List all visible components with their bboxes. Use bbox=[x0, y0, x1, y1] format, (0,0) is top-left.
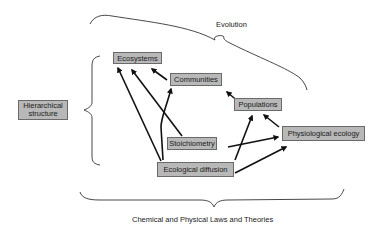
left-brace bbox=[84, 56, 100, 165]
hierarchical-structure-box: Hierarchical structure bbox=[18, 100, 68, 120]
arrow-physiological-ecology-to-populations bbox=[264, 115, 279, 127]
node-physiological-ecology: Physiological ecology bbox=[282, 126, 365, 141]
arrow-ecological-diffusion-to-populations bbox=[235, 116, 252, 160]
diagram-canvas: Evolution Chemical and Physical Laws and… bbox=[0, 0, 379, 236]
node-ecosystems: Ecosystems bbox=[113, 52, 162, 64]
chemical-physical-laws-label: Chemical and Physical Laws and Theories bbox=[132, 215, 273, 224]
arrow-ecological-diffusion-to-ecosystems bbox=[118, 68, 161, 161]
arrow-stoichiometry-to-physiological-ecology bbox=[228, 137, 278, 147]
arrow-communities-to-ecosystems bbox=[152, 69, 167, 80]
evolution-label: Evolution bbox=[216, 20, 247, 29]
node-populations: Populations bbox=[234, 98, 282, 111]
node-stoichiometry: Stoichiometry bbox=[167, 137, 217, 150]
arrow-ecological-diffusion-to-physiological-ecology bbox=[235, 147, 286, 173]
node-communities: Communities bbox=[170, 73, 222, 86]
node-ecological-diffusion: Ecological diffusion bbox=[157, 162, 234, 177]
bottom-brace bbox=[80, 189, 344, 207]
